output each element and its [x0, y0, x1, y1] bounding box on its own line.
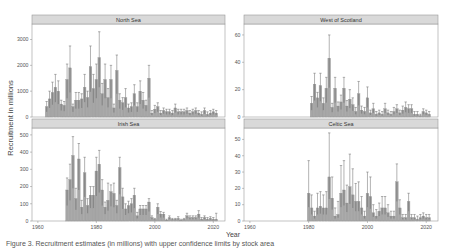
panel-north-sea: North Sea0100020003000: [17, 15, 225, 120]
y-tick-label: 20: [235, 86, 241, 92]
faceted-bar-chart: Recruitment in millions Year North Sea01…: [0, 0, 450, 248]
y-tick-label: 1000: [17, 88, 29, 94]
facet-title: Irish Sea: [118, 121, 141, 127]
x-tick-label: 2020: [420, 224, 432, 230]
y-tick-label: 400: [20, 149, 29, 155]
panel-west-of-scotland: West of Scotland0204060: [235, 15, 438, 120]
y-tick-label: 300: [20, 166, 29, 172]
y-tick-label: 500: [20, 132, 29, 138]
facet-title: North Sea: [116, 17, 142, 23]
y-tick-label: 0: [238, 218, 241, 224]
x-tick-label: 2000: [362, 224, 374, 230]
x-tick-label: 1960: [32, 224, 44, 230]
panel-irish-sea: Irish Sea0100200300400500196019802000202…: [20, 119, 225, 230]
figure-caption: Figure 3. Recruitment estimates (in mill…: [6, 240, 274, 247]
x-tick-label: 2020: [208, 224, 220, 230]
y-tick-label: 20: [235, 185, 241, 191]
x-tick-label: 1980: [303, 224, 315, 230]
y-tick-label: 40: [235, 59, 241, 65]
x-tick-label: 1980: [91, 224, 103, 230]
y-tick-label: 50: [235, 136, 241, 142]
plot-area: [32, 24, 225, 117]
y-axis-label: Recruitment in millions: [6, 80, 15, 156]
y-tick-label: 0: [238, 114, 241, 120]
y-tick-label: 60: [235, 32, 241, 38]
facet-title: West of Scotland: [320, 17, 361, 23]
y-tick-label: 0: [26, 114, 29, 120]
y-tick-label: 40: [235, 153, 241, 159]
y-tick-label: 100: [20, 201, 29, 207]
y-tick-label: 10: [235, 201, 241, 207]
y-tick-label: 2000: [17, 62, 29, 68]
x-axis-label: Year: [226, 231, 241, 238]
panel-celtic-sea: Celtic Sea010203040501960198020002020: [235, 119, 438, 230]
facet-title: Celtic Sea: [328, 121, 354, 127]
y-tick-label: 200: [20, 183, 29, 189]
x-tick-label: 1960: [244, 224, 256, 230]
y-tick-label: 3000: [17, 36, 29, 42]
y-tick-label: 30: [235, 169, 241, 175]
x-tick-label: 2000: [149, 224, 161, 230]
y-tick-label: 0: [26, 218, 29, 224]
